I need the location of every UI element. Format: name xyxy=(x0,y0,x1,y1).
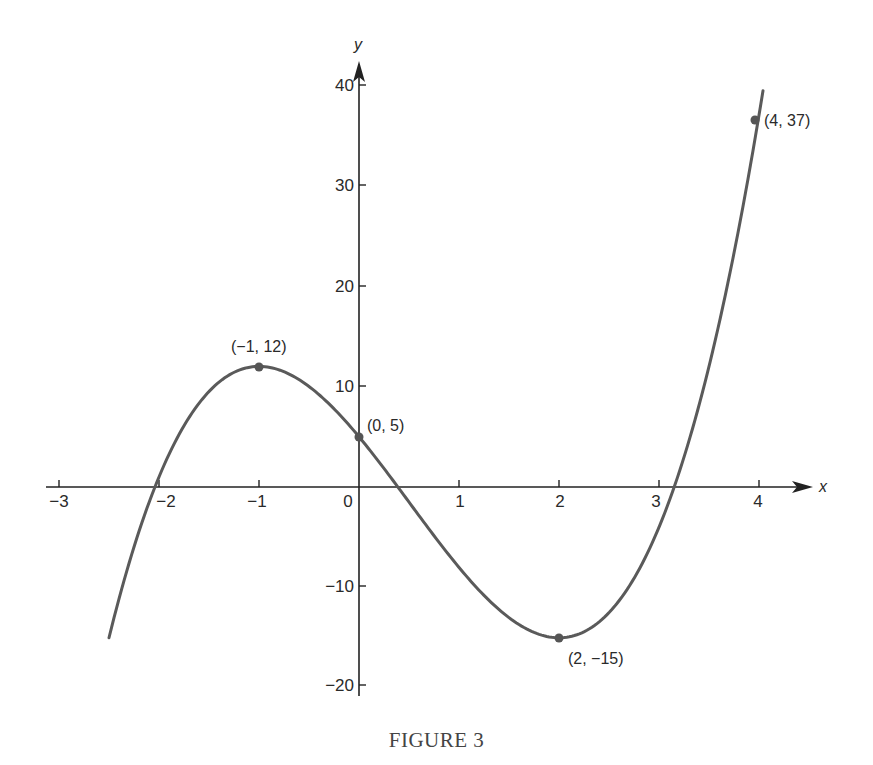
x-tick-label: −1 xyxy=(247,492,266,511)
x-tick-label: 4 xyxy=(753,492,762,511)
x-axis-label: x xyxy=(818,478,828,495)
point-marker xyxy=(355,433,364,442)
x-tick-label: 3 xyxy=(651,492,660,511)
point-marker xyxy=(255,363,264,372)
y-tick-label: 40 xyxy=(335,76,354,95)
cubic-function-graph: x y −3 −2 −1 0 1 2 3 4 −20 −10 10 20 30 … xyxy=(0,0,873,765)
y-tick-label: −20 xyxy=(325,676,354,695)
point-marker xyxy=(555,634,564,643)
cubic-curve xyxy=(109,91,763,638)
point-label: (0, 5) xyxy=(367,417,404,434)
point-marker xyxy=(751,116,760,125)
figure-caption: FIGURE 3 xyxy=(0,728,873,753)
y-ticks: −20 −10 10 20 30 40 xyxy=(325,76,366,695)
point-label: (−1, 12) xyxy=(231,338,287,355)
x-tick-label: 0 xyxy=(343,492,352,511)
x-tick-label: −3 xyxy=(49,492,68,511)
x-tick-label: −2 xyxy=(156,492,175,511)
y-tick-label: 30 xyxy=(335,176,354,195)
y-tick-label: 20 xyxy=(335,277,354,296)
point-label: (2, −15) xyxy=(568,650,624,667)
axes: x y xyxy=(46,36,828,696)
marked-points: (−1, 12) (0, 5) (2, −15) (4, 37) xyxy=(231,112,810,667)
x-tick-label: 2 xyxy=(555,492,564,511)
y-tick-label: 10 xyxy=(335,377,354,396)
y-axis-label: y xyxy=(353,36,363,53)
point-label: (4, 37) xyxy=(764,112,810,129)
y-tick-label: −10 xyxy=(325,577,354,596)
x-tick-label: 1 xyxy=(455,492,464,511)
